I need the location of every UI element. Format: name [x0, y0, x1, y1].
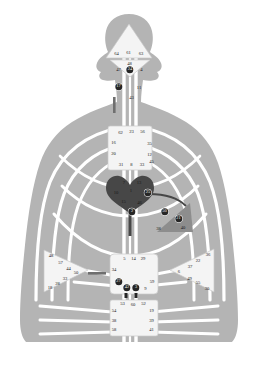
gate-1[interactable]: 1: [130, 188, 132, 193]
gate-28[interactable]: 28: [55, 282, 60, 287]
gate-53[interactable]: 53: [120, 302, 125, 307]
gate-35[interactable]: 35: [147, 141, 152, 146]
gate-54[interactable]: 54: [112, 308, 117, 313]
bodygraph-diagram: 6461634847244171143622356163520123183345…: [0, 0, 258, 365]
gate-50[interactable]: 50: [74, 270, 79, 275]
gate-59[interactable]: 59: [150, 279, 155, 284]
gate-55[interactable]: 55: [196, 281, 201, 286]
gate-60[interactable]: 60: [131, 302, 136, 307]
gate-23[interactable]: 23: [129, 130, 134, 135]
gate-43[interactable]: 43: [129, 96, 134, 101]
gate-57[interactable]: 57: [58, 260, 63, 265]
gate-22[interactable]: 22: [196, 259, 201, 264]
gate-9[interactable]: 9: [144, 286, 146, 291]
gate-6[interactable]: 6: [178, 270, 180, 275]
gate-29[interactable]: 29: [141, 257, 146, 262]
gate-31[interactable]: 31: [119, 162, 124, 167]
gate-58[interactable]: 58: [112, 328, 117, 333]
gate-44[interactable]: 44: [66, 266, 71, 271]
gate-33[interactable]: 33: [63, 277, 68, 282]
gate-16[interactable]: 16: [111, 141, 116, 146]
gate-52[interactable]: 52: [141, 302, 146, 307]
gate-61[interactable]: 61: [126, 51, 131, 56]
gate-39[interactable]: 39: [149, 318, 154, 323]
gate-14[interactable]: 14: [131, 257, 136, 262]
gate-49[interactable]: 49: [187, 276, 192, 281]
gate-19[interactable]: 19: [149, 308, 154, 313]
gate-38[interactable]: 38: [112, 318, 117, 323]
gate-13[interactable]: 13: [137, 180, 142, 185]
gate-46[interactable]: 46: [137, 200, 142, 205]
gate-56[interactable]: 56: [140, 130, 145, 135]
gate-38[interactable]: 38: [156, 226, 161, 231]
throat-connector: [113, 97, 116, 113]
root-stub-right: [135, 293, 138, 298]
gate-45[interactable]: 45: [149, 159, 154, 164]
gate-47[interactable]: 47: [116, 68, 121, 73]
root-stub-left: [125, 293, 128, 298]
gate-15[interactable]: 15: [121, 200, 126, 205]
gate-5[interactable]: 5: [123, 257, 125, 262]
gate-41[interactable]: 41: [149, 328, 154, 333]
sacral-connector: [88, 272, 106, 275]
gate-48[interactable]: 48: [49, 254, 54, 259]
gate-12[interactable]: 12: [147, 153, 152, 158]
gate-11[interactable]: 11: [137, 85, 141, 90]
gate-36[interactable]: 36: [206, 252, 211, 257]
gate-20[interactable]: 20: [111, 152, 116, 157]
gate-18[interactable]: 18: [48, 286, 53, 291]
gate-37[interactable]: 37: [188, 265, 193, 270]
gate-10[interactable]: 10: [114, 190, 119, 195]
gate-30[interactable]: 30: [205, 286, 210, 291]
gate-8[interactable]: 8: [130, 162, 132, 167]
gate-63[interactable]: 63: [139, 52, 144, 57]
gate-62[interactable]: 62: [118, 130, 123, 135]
gate-64[interactable]: 64: [114, 52, 119, 57]
gate-34[interactable]: 34: [112, 268, 117, 273]
gate-33[interactable]: 33: [140, 162, 145, 167]
gate-40[interactable]: 40: [181, 226, 186, 231]
gate-7[interactable]: 7: [123, 181, 125, 186]
gate-4[interactable]: 4: [140, 68, 142, 73]
